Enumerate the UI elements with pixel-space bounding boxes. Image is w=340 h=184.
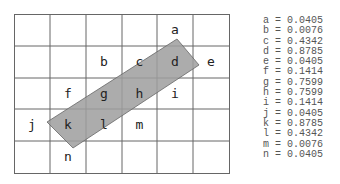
- cell-label-i: i: [171, 86, 179, 101]
- cell-label-b: b: [100, 54, 108, 69]
- cell-label-e: e: [207, 54, 215, 69]
- cell-label-g: g: [100, 86, 108, 101]
- cell-label-d: d: [171, 54, 179, 69]
- cell-label-h: h: [136, 86, 144, 101]
- legend-entry-n: n = 0.0405: [263, 150, 323, 160]
- cell-label-j: j: [28, 117, 36, 132]
- legend: a = 0.0405b = 0.0076c = 0.4342d = 0.8785…: [263, 16, 323, 160]
- cell-label-f: f: [64, 86, 72, 101]
- cell-label-c: c: [136, 54, 144, 69]
- cell-label-k: k: [64, 117, 72, 132]
- cell-label-m: m: [136, 117, 144, 132]
- cell-label-n: n: [64, 149, 72, 164]
- cell-label-l: l: [100, 117, 108, 132]
- cell-label-a: a: [171, 22, 179, 37]
